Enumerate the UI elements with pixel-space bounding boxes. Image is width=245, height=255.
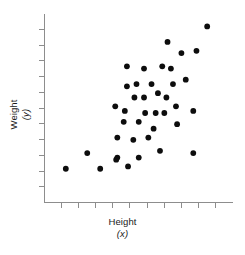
- data-point: [63, 166, 69, 172]
- data-point: [130, 137, 136, 143]
- data-point: [159, 63, 165, 69]
- data-point: [179, 50, 185, 56]
- y-axis-label: Weight (y): [8, 70, 31, 160]
- data-point: [174, 121, 180, 127]
- data-point: [145, 135, 151, 141]
- x-axis-label-main: Height: [0, 216, 245, 228]
- data-point: [165, 39, 171, 45]
- data-point: [84, 150, 90, 156]
- x-axis-label-variable: (x): [0, 228, 245, 240]
- x-axis-ticks: [62, 203, 216, 208]
- scatterplot-figure: Height (x) Weight (y): [0, 0, 245, 255]
- data-point: [132, 95, 138, 101]
- data-point: [149, 81, 155, 87]
- data-point: [173, 103, 179, 109]
- data-point: [124, 63, 130, 69]
- data-point: [142, 110, 148, 116]
- data-point: [190, 150, 196, 156]
- data-point: [155, 90, 161, 96]
- axis-lines: [45, 14, 233, 203]
- data-point: [136, 119, 142, 125]
- data-point: [190, 108, 196, 114]
- x-axis-label: Height (x): [0, 216, 245, 239]
- y-axis-label-variable: (y): [19, 70, 31, 160]
- data-point: [153, 110, 159, 116]
- data-point: [134, 81, 140, 87]
- y-axis-ticks: [39, 30, 44, 187]
- data-point: [151, 126, 157, 132]
- data-point: [122, 108, 128, 114]
- data-point: [141, 95, 147, 101]
- data-point: [125, 164, 131, 170]
- data-point: [113, 157, 119, 163]
- data-point: [114, 135, 120, 141]
- data-point: [157, 148, 163, 154]
- y-axis-label-main: Weight: [8, 70, 20, 160]
- data-point: [112, 103, 118, 109]
- data-point: [121, 119, 127, 125]
- data-point: [141, 66, 147, 72]
- axes: [45, 14, 233, 203]
- data-point: [183, 77, 189, 83]
- data-point: [168, 66, 174, 72]
- data-point: [194, 48, 200, 54]
- data-points: [63, 24, 210, 172]
- data-point: [136, 155, 142, 161]
- data-point: [161, 110, 167, 116]
- data-point: [163, 95, 169, 101]
- data-point: [124, 83, 130, 89]
- data-point: [204, 24, 210, 30]
- data-point: [97, 166, 103, 172]
- data-point: [170, 81, 176, 87]
